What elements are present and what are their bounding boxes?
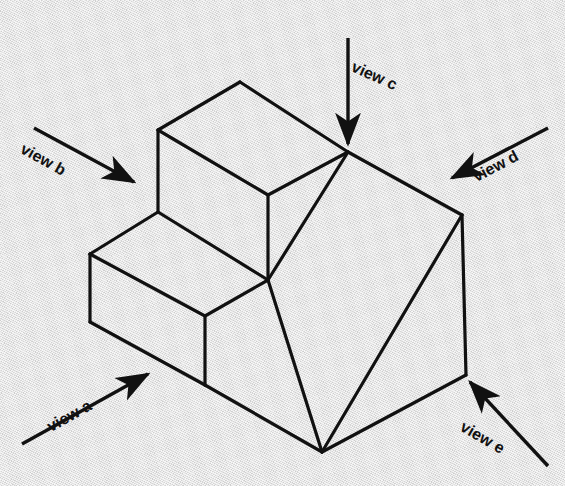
solid-edge-step-tread-right: [158, 212, 268, 280]
solid-edge-ramp-top: [348, 152, 462, 215]
solid-edge-ramp-slope-face: [268, 152, 348, 280]
arrow-view-e: [470, 382, 548, 466]
solid-edge-lower-front-right: [205, 280, 268, 316]
solid-edge-right-vertical: [462, 215, 466, 375]
technical-drawing-page: view aview bview cview dview e: [0, 0, 565, 486]
solid-edge-upper-top-front-left: [158, 130, 268, 195]
solid-edge-upper-top-back-left: [158, 82, 240, 130]
solid-edge-upper-top-back-right: [240, 82, 348, 152]
solid-edge-step-tread-left: [90, 212, 158, 254]
solid-edge-lower-top-front: [90, 254, 205, 316]
solid-edge-group: [90, 82, 466, 452]
solid-edge-ramp-diagonal: [322, 215, 462, 452]
